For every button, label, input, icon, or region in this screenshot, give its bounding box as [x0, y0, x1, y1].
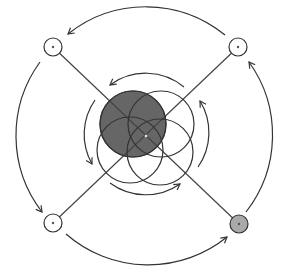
outer-arrow-right	[246, 62, 273, 212]
corner-dot-tl	[52, 46, 54, 48]
rotation-diagram	[0, 0, 294, 268]
inner-arrow-left	[84, 100, 95, 164]
corner-dot-bl	[52, 222, 54, 224]
outer-arrow-bottom	[66, 234, 227, 265]
inner-arrow-top	[110, 73, 184, 87]
center-dot	[145, 135, 148, 138]
outer-arrow-left	[16, 62, 42, 212]
corner-dot-tr	[237, 46, 239, 48]
inner-arrow-right	[198, 101, 209, 167]
outer-arrow-top	[68, 7, 225, 35]
inner-arrow-bottom	[110, 183, 180, 195]
corner-dot-br	[238, 223, 240, 225]
